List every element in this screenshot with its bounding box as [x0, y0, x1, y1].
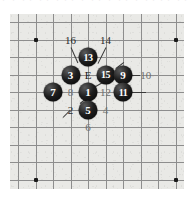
point-label-6: 6 [85, 122, 91, 133]
grid-line-horizontal [10, 162, 184, 163]
go-stone-black-5: 5 [79, 100, 98, 119]
go-stone-black-15: 15 [96, 65, 115, 84]
star-point [174, 38, 178, 42]
point-label-12: 12 [100, 87, 111, 98]
go-stone-black-1: 1 [79, 83, 98, 102]
go-stone-black-11: 11 [114, 83, 133, 102]
go-stone-black-13: 13 [79, 48, 98, 67]
go-stone-black-9: 9 [114, 65, 133, 84]
star-point [174, 178, 178, 182]
scan-edge-text-content: ・ ・ ・・ ・・ ・・・ ・ ・・ ・ ・・ ・ ・・・・ ・・・ [0, 0, 192, 5]
go-diagram-figure: ・ ・ ・・ ・・ ・・・ ・ ・・ ・ ・・ ・ ・・・・ ・・・ 1614E… [0, 0, 192, 203]
leader-line [131, 92, 146, 93]
grid-line-horizontal [10, 22, 184, 23]
point-label-2: 2 [68, 104, 74, 115]
point-label-8: 8 [68, 87, 74, 98]
star-point [34, 178, 38, 182]
point-label-14: 14 [100, 34, 111, 45]
go-board: 1614E10812246 13315971115 [10, 14, 184, 189]
point-label-16: 16 [65, 34, 76, 45]
point-label-4: 4 [103, 104, 109, 115]
grid-line-horizontal [10, 127, 184, 128]
go-stone-black-3: 3 [61, 65, 80, 84]
grid-line-horizontal [10, 145, 184, 146]
scan-edge-text: ・ ・ ・・ ・・ ・・・ ・ ・・ ・ ・・ ・ ・・・・ ・・・ [0, 0, 192, 9]
star-point [34, 38, 38, 42]
go-stone-black-7: 7 [44, 83, 63, 102]
point-label-10: 10 [140, 69, 151, 80]
point-label-E: E [85, 69, 92, 80]
